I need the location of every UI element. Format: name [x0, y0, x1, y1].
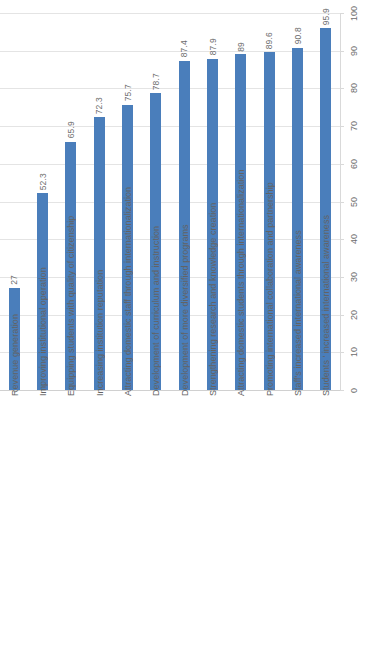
axis-tick-label: 20 [349, 302, 359, 328]
plot-area: 2752.365.972.375.778.787.487.98989.690.8… [0, 13, 340, 390]
bar-value-label: 52.3 [38, 173, 48, 190]
gridline-0 [0, 390, 340, 391]
value-axis: 0102030405060708090100 [340, 13, 366, 390]
axis-tick-mark [340, 390, 344, 391]
category-label: Development of more diversified programs [180, 224, 190, 396]
gridline-60 [0, 164, 340, 165]
bar-value-label: 89.6 [264, 32, 274, 49]
category-label: Equipping students with quality of citiz… [66, 216, 76, 396]
bar-value-label: 90.8 [293, 27, 303, 44]
axis-tick-label: 40 [349, 226, 359, 252]
category-label: Revenue generation [10, 314, 20, 396]
category-label: Development of curriculum and instructio… [151, 226, 161, 396]
axis-tick-label: 60 [349, 151, 359, 177]
category-axis: Revenue generationImproving institutiona… [0, 396, 340, 651]
axis-tick-mark [340, 315, 344, 316]
category-label: Strengthening research and knowledge cre… [208, 203, 218, 396]
axis-tick-mark [340, 202, 344, 203]
axis-tick-mark [340, 51, 344, 52]
bar-value-label: 27 [9, 275, 19, 285]
gridline-100 [0, 13, 340, 14]
gridline-20 [0, 315, 340, 316]
category-label: Attracting domestic staff through intern… [123, 187, 133, 396]
axis-tick-mark [340, 277, 344, 278]
bar-value-label: 87.4 [179, 40, 189, 57]
axis-tick-mark [340, 239, 344, 240]
axis-tick-label: 80 [349, 75, 359, 101]
category-label: Promoting international collaboration an… [265, 182, 275, 396]
axis-tick-mark [340, 352, 344, 353]
gridline-50 [0, 202, 340, 203]
bar-value-label: 75.7 [123, 84, 133, 101]
gridline-90 [0, 51, 340, 52]
bar-value-label: 72.3 [94, 97, 104, 114]
gridline-70 [0, 126, 340, 127]
axis-tick-label: 90 [349, 38, 359, 64]
category-label: Improving institutional operation [38, 267, 48, 396]
axis-tick-mark [340, 13, 344, 14]
bar-value-label: 65.9 [66, 121, 76, 138]
axis-tick-mark [340, 126, 344, 127]
axis-tick-label: 10 [349, 339, 359, 365]
gridline-40 [0, 239, 340, 240]
axis-tick-label: 30 [349, 264, 359, 290]
axis-tick-label: 100 [349, 0, 359, 26]
category-label: Staff's increased international awarenes… [293, 230, 303, 396]
category-label: Increasing institution reputation [95, 270, 105, 396]
axis-tick-label: 70 [349, 113, 359, 139]
gridline-30 [0, 277, 340, 278]
bar-chart: 2752.365.972.375.778.787.487.98989.690.8… [0, 0, 366, 655]
gridline-80 [0, 88, 340, 89]
category-label: Attracting domestic students through int… [236, 170, 246, 396]
category-label: Students ' increased international aware… [321, 215, 331, 396]
axis-tick-mark [340, 88, 344, 89]
axis-tick-label: 50 [349, 189, 359, 215]
gridline-10 [0, 352, 340, 353]
bar-value-label: 89 [236, 42, 246, 52]
bar-value-label: 78.7 [151, 73, 161, 90]
bar-value-label: 87.9 [208, 38, 218, 55]
bar-value-label: 95.9 [321, 8, 331, 25]
axis-tick-label: 0 [349, 377, 359, 403]
axis-tick-mark [340, 164, 344, 165]
